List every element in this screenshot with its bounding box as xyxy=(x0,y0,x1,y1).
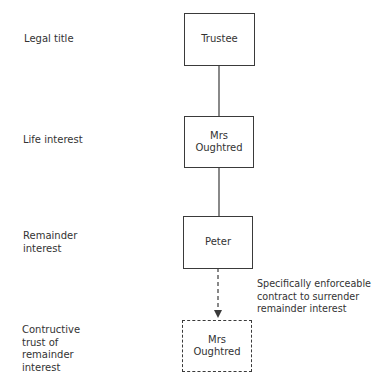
label-constructive-trust: Contructive trust of remainder interest xyxy=(22,324,80,374)
arrowhead-icon xyxy=(214,310,222,318)
label-life-interest: Life interest xyxy=(23,134,83,147)
node-trustee: Trustee xyxy=(184,13,255,66)
label-legal-title: Legal title xyxy=(24,33,74,46)
node-constructive-mrs-oughtred: MrsOughtred xyxy=(182,320,252,372)
node-remainder-peter: Peter xyxy=(183,216,253,269)
label-remainder-interest: Remainder interest xyxy=(23,230,77,255)
edge-label-contract: Specifically enforceable contract to sur… xyxy=(257,278,371,316)
node-life-interest-mrs-oughtred: MrsOughtred xyxy=(184,116,254,168)
